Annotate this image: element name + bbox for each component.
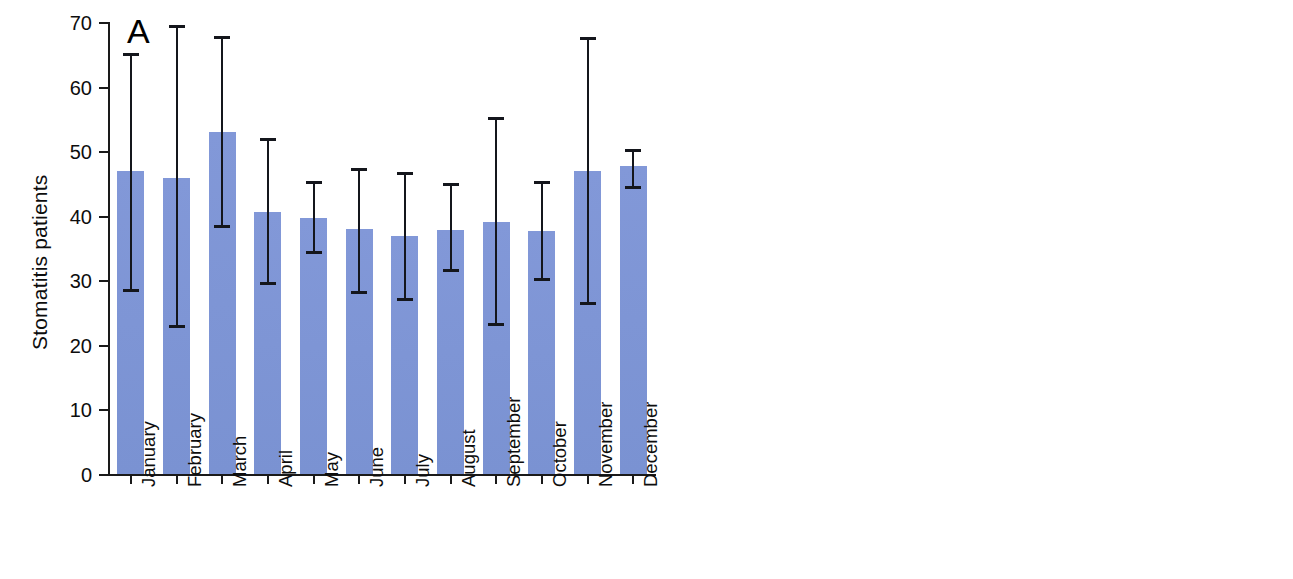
error-bar-cap-lower [260,282,276,285]
x-axis-label: October [549,421,571,487]
error-bar-cap-upper [488,117,504,120]
error-bar-cap-lower [351,291,367,294]
x-axis-label: August [458,429,480,487]
x-axis-tick [632,476,634,484]
error-bar-line [313,181,315,253]
y-axis-tick-label: 70 [46,12,92,35]
y-axis-tick [99,22,108,24]
x-axis-tick [358,476,360,484]
error-bar-cap-upper [580,37,596,40]
x-axis-label: December [640,402,662,487]
error-bar-cap-lower [397,298,413,301]
error-bar-line [267,138,269,285]
error-bar-cap-upper [534,181,550,184]
y-axis-tick [99,216,108,218]
y-axis-tick-label: 40 [46,205,92,228]
error-bar-line [130,53,132,291]
error-bar-cap-lower [580,302,596,305]
y-axis-tick [99,409,108,411]
panel-a-letter: A [127,12,150,51]
x-axis-label: January [138,421,160,487]
y-axis-tick-label: 10 [46,399,92,422]
error-bar-cap-lower [214,225,230,228]
error-bar-line [495,117,497,325]
x-axis-label: April [275,450,297,487]
figure-root: Stomatitis patients A 010203040506070Jan… [0,0,1293,579]
x-axis-tick [587,476,589,484]
error-bar-line [450,183,452,271]
panel-a: Stomatitis patients A 010203040506070Jan… [0,0,660,579]
error-bar-cap-upper [625,149,641,152]
y-axis-line [108,22,110,476]
x-axis-tick [404,476,406,484]
error-bar-cap-lower [625,186,641,189]
y-axis-tick-label: 30 [46,270,92,293]
error-bar-line [358,168,360,293]
error-bar-line [587,37,589,304]
error-bar-cap-upper [351,168,367,171]
error-bar-line [176,25,178,327]
panel-a-y-axis-title: Stomatitis patients [28,175,52,350]
x-axis-label: February [184,413,206,487]
error-bar-cap-lower [488,323,504,326]
y-axis-tick [99,345,108,347]
x-axis-tick [313,476,315,484]
error-bar-line [221,36,223,226]
error-bar-cap-lower [443,269,459,272]
y-axis-tick-label: 0 [46,464,92,487]
x-axis-tick [450,476,452,484]
x-axis-label: November [595,402,617,487]
bar [300,218,327,474]
y-axis-tick-label: 60 [46,76,92,99]
error-bar-line [404,172,406,300]
error-bar-cap-upper [397,172,413,175]
panel-b: Kampo-prescribed stomatitis patients B 0… [660,0,1293,579]
x-axis-label: September [503,397,525,488]
y-axis-tick [99,87,108,89]
error-bar-cap-lower [123,289,139,292]
x-axis-label: March [229,436,251,487]
error-bar-cap-upper [260,138,276,141]
error-bar-cap-upper [123,53,139,56]
x-axis-label: June [366,447,388,487]
y-axis-tick-label: 50 [46,141,92,164]
y-axis-tick [99,280,108,282]
error-bar-cap-upper [169,25,185,28]
x-axis-tick [130,476,132,484]
x-axis-label: July [412,454,434,487]
x-axis-label: May [321,452,343,487]
x-axis-tick [176,476,178,484]
error-bar-line [541,181,543,280]
y-axis-tick [99,151,108,153]
y-axis-tick [99,474,108,476]
x-axis-tick [267,476,269,484]
error-bar-cap-lower [306,251,322,254]
y-axis-tick-label: 20 [46,334,92,357]
error-bar-cap-lower [534,278,550,281]
error-bar-cap-upper [306,181,322,184]
error-bar-line [632,149,634,188]
x-axis-tick [221,476,223,484]
x-axis-tick [495,476,497,484]
error-bar-cap-upper [443,183,459,186]
error-bar-cap-lower [169,325,185,328]
x-axis-tick [541,476,543,484]
error-bar-cap-upper [214,36,230,39]
